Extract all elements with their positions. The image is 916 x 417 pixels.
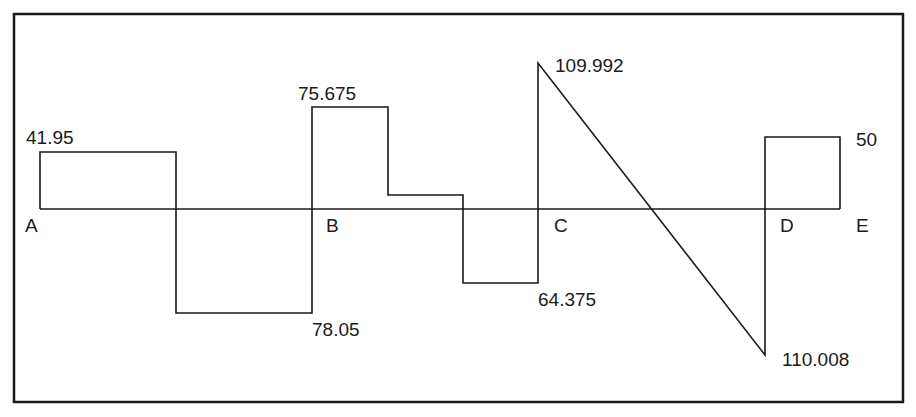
- diagram-frame: [14, 14, 903, 402]
- value-label-110-008: 110.008: [782, 349, 849, 370]
- point-label-d: D: [780, 215, 794, 236]
- value-label-64-375: 64.375: [538, 289, 596, 310]
- value-label-75-675: 75.675: [298, 83, 356, 104]
- shear-force-diagram: A B C D E 41.95 78.05 75.675 64.375 109.…: [0, 0, 916, 417]
- value-label-109-992: 109.992: [555, 55, 624, 76]
- point-label-e: E: [856, 215, 869, 236]
- value-label-78-05: 78.05: [312, 319, 360, 340]
- point-label-b: B: [326, 215, 339, 236]
- point-label-c: C: [554, 215, 568, 236]
- point-label-a: A: [25, 215, 38, 236]
- value-label-50: 50: [856, 129, 877, 150]
- value-label-41-95: 41.95: [26, 127, 74, 148]
